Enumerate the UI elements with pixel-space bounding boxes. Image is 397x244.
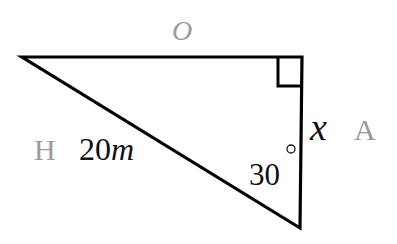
right-angle-marker	[278, 57, 302, 86]
hypotenuse-length-value: 20	[79, 131, 111, 167]
hypotenuse-length-label: 20m	[79, 131, 134, 167]
adjacent-side-variable: x	[309, 106, 327, 148]
hypotenuse-side-label: H	[34, 133, 56, 166]
triangle-shape	[22, 57, 302, 228]
angle-value: 30	[249, 157, 280, 192]
adjacent-side-label: A	[354, 113, 376, 146]
hypotenuse-length-unit: m	[111, 131, 134, 167]
right-triangle-diagram: O H 20m 30 x A	[0, 0, 397, 244]
opposite-side-label: O	[172, 15, 192, 46]
angle-label: 30	[249, 157, 280, 192]
degree-symbol	[287, 145, 295, 153]
